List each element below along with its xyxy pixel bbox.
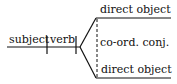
subject-label: subject: [9, 34, 49, 46]
lower-direct-object-label: direct object: [101, 64, 172, 76]
lower-fork-line: [80, 47, 96, 78]
upper-fork-line: [80, 18, 96, 47]
upper-direct-object-label: direct object: [100, 4, 171, 16]
sentence-diagram: subject verb direct object co-ord. conj.…: [0, 0, 177, 84]
conjunction-label: co-ord. conj.: [100, 37, 169, 49]
verb-label: verb: [50, 34, 75, 46]
